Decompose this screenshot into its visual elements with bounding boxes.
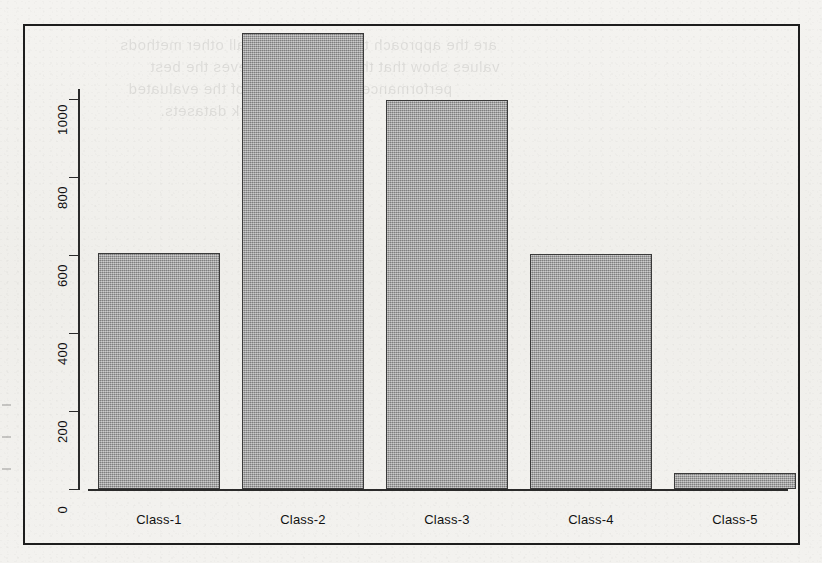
- bar-4: [530, 254, 652, 489]
- bar-3: [386, 100, 508, 489]
- bar-1: [98, 253, 220, 489]
- y-axis-tick: [69, 489, 78, 490]
- bar-chart: 02004006008001000 Class-1Class-2Class-3C…: [0, 0, 822, 563]
- y-axis-tick-label: 800: [55, 176, 70, 220]
- x-axis-tick-label: Class-3: [386, 512, 508, 527]
- x-axis-tick-label: Class-4: [530, 512, 652, 527]
- x-axis-tick-label: Class-5: [674, 512, 796, 527]
- y-axis-tick: [69, 99, 78, 100]
- x-axis-tick-label: Class-1: [98, 512, 220, 527]
- y-axis-tick-label: 600: [55, 254, 70, 298]
- y-axis-tick-label: 1000: [55, 98, 70, 142]
- y-axis-tick: [69, 333, 78, 334]
- y-axis-tick: [69, 177, 78, 178]
- y-axis-tick-label: 400: [55, 332, 70, 376]
- y-axis-tick-label: 200: [55, 410, 70, 454]
- x-axis-line: [88, 489, 788, 491]
- y-axis-tick: [69, 411, 78, 412]
- y-axis-line: [78, 89, 80, 490]
- bar-5: [674, 473, 796, 489]
- y-axis-tick: [69, 255, 78, 256]
- x-axis-tick-label: Class-2: [242, 512, 364, 527]
- bar-2: [242, 33, 364, 489]
- y-axis-tick-label: 0: [55, 488, 70, 532]
